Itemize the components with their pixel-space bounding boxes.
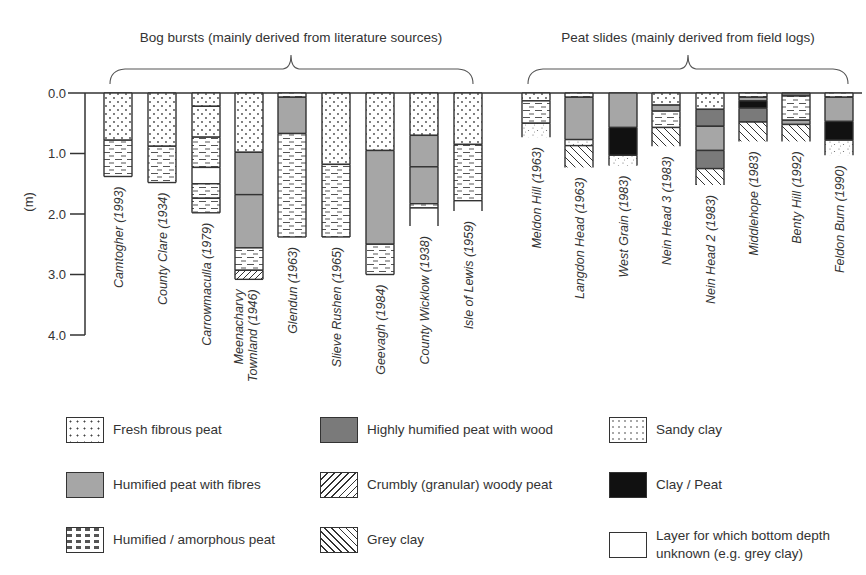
layer-amorph xyxy=(782,96,810,120)
column-label: Nein Head 2 (1983) xyxy=(704,195,718,304)
legend-swatch xyxy=(66,417,104,443)
layer-fresh xyxy=(148,93,176,146)
column-label: Meenacharvy xyxy=(232,289,246,365)
legend-item-greyclay: Grey clay xyxy=(320,527,424,553)
layer-amorph xyxy=(322,164,350,237)
legend-swatch xyxy=(66,527,104,553)
legend-item-humfib: Humified peat with fibres xyxy=(66,472,261,498)
layer-greyclay xyxy=(565,146,593,168)
column-label: Carrowmaculla (1979) xyxy=(200,223,214,346)
log-column: MeenacharvyTownland (1946) xyxy=(232,93,263,382)
legend-label: Humified peat with fibres xyxy=(113,476,261,494)
layer-greyclay xyxy=(652,127,680,146)
legend-item-claypeat: Clay / Peat xyxy=(609,472,722,498)
layer-highwood xyxy=(696,150,724,168)
y-tick-label: 0.0 xyxy=(48,86,66,101)
layer-claypeat xyxy=(739,101,767,108)
layer-sandy xyxy=(522,123,550,137)
layer-crumbly xyxy=(235,270,263,279)
layer-humfib xyxy=(609,93,637,127)
group-title: Bog bursts (mainly derived from literatu… xyxy=(140,30,442,45)
stratigraphy-chart: Bog bursts (mainly derived from literatu… xyxy=(0,0,866,400)
legend-item-unknown: Layer for which bottom depth unknown (e.… xyxy=(609,527,856,563)
log-column: County Wicklow (1938) xyxy=(410,93,438,365)
layer-humfib xyxy=(652,105,680,111)
group-brace xyxy=(528,55,848,84)
layer-sandy xyxy=(609,155,637,165)
legend-label: Crumbly (granular) woody peat xyxy=(367,476,552,494)
layer-unknown xyxy=(454,201,482,211)
column-label: Geevagh (1984) xyxy=(374,285,388,375)
layer-sandy xyxy=(825,140,853,155)
y-axis-label: (m) xyxy=(21,192,36,212)
legend-swatch xyxy=(320,472,358,498)
layer-humfib xyxy=(410,135,438,166)
layer-fresh xyxy=(410,93,438,135)
legend-label: Fresh fibrous peat xyxy=(113,421,222,439)
column-label: Langdon Head (1963) xyxy=(573,177,587,299)
column-label: Feldon Burn (1990) xyxy=(833,165,847,273)
column-label: Glendun (1963) xyxy=(286,247,300,334)
layer-amorph xyxy=(192,137,220,167)
layer-amorph xyxy=(148,146,176,182)
legend-label: Clay / Peat xyxy=(656,476,722,494)
layer-fresh xyxy=(192,93,220,106)
legend-item-fresh: Fresh fibrous peat xyxy=(66,417,222,443)
y-tick-label: 1.0 xyxy=(48,146,66,161)
group-brace xyxy=(110,55,473,84)
layer-fresh xyxy=(322,93,350,164)
layer-greyclay xyxy=(696,169,724,185)
log-column: Slieve Rushen (1965) xyxy=(322,93,350,367)
legend: Fresh fibrous peatHumified peat with fib… xyxy=(0,400,866,575)
column-label: Meldon Hill (1963) xyxy=(530,147,544,248)
column-label: Isle of Lewis (1959) xyxy=(462,221,476,329)
log-column: Carrowmaculla (1979) xyxy=(192,93,220,346)
layer-amorph xyxy=(366,244,394,274)
layer-sandy xyxy=(565,140,593,146)
log-column: Meldon Hill (1963) xyxy=(522,93,550,249)
layer-fresh xyxy=(652,93,680,105)
layer-humfib xyxy=(696,126,724,150)
layer-fresh xyxy=(366,93,394,150)
layer-humfib xyxy=(235,195,263,248)
legend-item-sandy: Sandy clay xyxy=(609,417,722,443)
legend-swatch xyxy=(320,417,358,443)
legend-item-highwood: Highly humified peat with wood xyxy=(320,417,553,443)
legend-label: Layer for which bottom depth unknown (e.… xyxy=(656,527,856,563)
layer-greyclay xyxy=(782,124,810,141)
layer-humfib xyxy=(278,97,306,133)
y-tick-label: 2.0 xyxy=(48,207,66,222)
layer-amorph xyxy=(192,184,220,199)
column-label: Middlehope (1983) xyxy=(747,151,761,255)
layer-humfib xyxy=(825,97,853,121)
column-label: County Wicklow (1938) xyxy=(418,236,432,364)
layer-amorph xyxy=(104,140,132,176)
column-label: West Grain (1983) xyxy=(617,176,631,278)
log-column: Langdon Head (1963) xyxy=(565,93,593,299)
group-title: Peat slides (mainly derived from field l… xyxy=(561,30,815,45)
log-column: County Clare (1934) xyxy=(148,93,176,305)
column-label: Nein Head 3 (1983) xyxy=(660,156,674,265)
legend-swatch xyxy=(609,417,647,443)
legend-swatch xyxy=(609,532,647,558)
layer-amorph xyxy=(652,111,680,127)
layer-fresh xyxy=(192,106,220,137)
layer-fresh xyxy=(696,93,724,109)
column-label: County Clare (1934) xyxy=(156,193,170,306)
log-column: Geevagh (1984) xyxy=(366,93,394,375)
layer-humfib xyxy=(410,167,438,204)
legend-item-amorph: Humified / amorphous peat xyxy=(66,527,275,553)
legend-swatch xyxy=(609,472,647,498)
log-column: Feldon Burn (1990) xyxy=(825,93,853,273)
y-tick-label: 4.0 xyxy=(48,328,66,343)
legend-item-crumbly: Crumbly (granular) woody peat xyxy=(320,472,552,498)
layer-fresh xyxy=(235,93,263,152)
column-label: Camtogher (1993) xyxy=(112,186,126,287)
legend-swatch xyxy=(320,527,358,553)
layer-amorph xyxy=(235,248,263,270)
layer-humfib xyxy=(366,150,394,244)
legend-label: Grey clay xyxy=(367,531,424,549)
layer-unknown xyxy=(410,208,438,226)
layer-amorph xyxy=(192,198,220,213)
y-tick-label: 3.0 xyxy=(48,267,66,282)
